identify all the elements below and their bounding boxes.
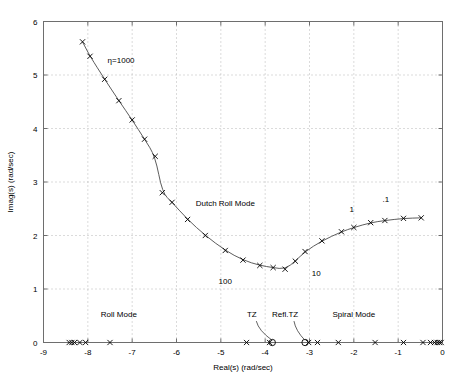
x-axis-title: Real(s) (rad/sec) xyxy=(213,363,273,372)
x-tick-label: -8 xyxy=(84,348,92,357)
x-tick-label: 0 xyxy=(440,348,445,357)
x-tick-label: -5 xyxy=(217,348,225,357)
x-tick-label: -7 xyxy=(129,348,137,357)
dutch-roll-mode-label: Dutch Roll Mode xyxy=(196,199,256,208)
x-tick-label: -1 xyxy=(395,348,403,357)
refl-tz-label: Refl.TZ xyxy=(272,310,298,319)
x-tick-label: -6 xyxy=(173,348,181,357)
y-tick-label: 0 xyxy=(33,339,38,348)
figure-background xyxy=(0,0,456,385)
gain-1-label: 1 xyxy=(349,205,354,214)
roll-mode-label: Roll Mode xyxy=(101,310,138,319)
root-locus-figure: -9-8-7-6-5-4-3-2-100123456 η=1000Dutch R… xyxy=(0,0,456,385)
y-tick-label: 4 xyxy=(33,125,38,134)
gain-100-label: 100 xyxy=(219,277,233,286)
y-tick-label: 5 xyxy=(33,71,38,80)
eta-1000-label: η=1000 xyxy=(108,56,135,65)
y-tick-label: 1 xyxy=(33,285,38,294)
gain-point1-label: .1 xyxy=(382,195,389,204)
y-tick-label: 2 xyxy=(33,232,38,241)
y-axis-title: Imag(s) (rad/sec) xyxy=(6,151,15,212)
spiral-mode-label: Spiral Mode xyxy=(332,310,375,319)
root-locus-plot: -9-8-7-6-5-4-3-2-100123456 η=1000Dutch R… xyxy=(0,0,456,385)
x-tick-label: -3 xyxy=(306,348,314,357)
gain-10-label: 10 xyxy=(312,269,321,278)
x-tick-label: -9 xyxy=(40,348,48,357)
y-tick-label: 3 xyxy=(33,178,38,187)
tz-label: TZ xyxy=(247,310,257,319)
x-tick-label: -2 xyxy=(350,348,358,357)
y-tick-label: 6 xyxy=(33,18,38,27)
x-tick-label: -4 xyxy=(262,348,270,357)
